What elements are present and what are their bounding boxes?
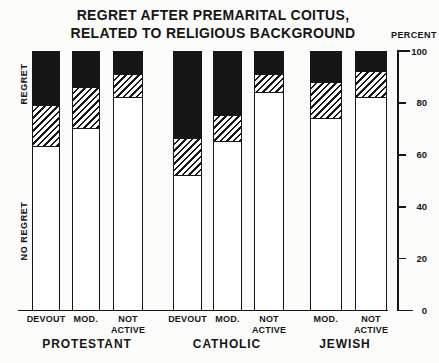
y-axis-line	[397, 51, 399, 312]
segment-regret	[255, 52, 283, 75]
segment-partial-regret	[311, 83, 341, 119]
bar-protestant-mod	[72, 51, 101, 312]
segment-regret	[114, 52, 142, 75]
segment-no-regret	[255, 93, 283, 310]
chart-title: REGRET AFTER PREMARITAL COITUS, RELATED …	[0, 6, 426, 42]
bar-jewish-mod	[310, 51, 342, 312]
segment-no-regret	[114, 98, 142, 310]
no-regret-axis-label: NO REGRET	[18, 171, 30, 291]
segment-partial-regret	[114, 75, 142, 98]
segment-partial-regret	[33, 106, 59, 147]
segment-no-regret	[33, 147, 59, 310]
bar-protestant-not-active	[113, 51, 143, 312]
bar-label-catholic-not-active: NOT ACTIVE	[237, 314, 301, 337]
bar-protestant-devout	[32, 51, 60, 312]
bar-catholic-mod	[213, 51, 242, 312]
x-axis-baseline	[18, 310, 388, 312]
segment-regret	[356, 52, 386, 73]
segment-partial-regret	[356, 72, 386, 98]
segment-regret	[311, 52, 341, 83]
group-label-protestant: PROTESTANT	[12, 337, 162, 351]
chart-title-line1: REGRET AFTER PREMARITAL COITUS,	[0, 6, 426, 24]
y-axis-tick-label: 40	[403, 201, 427, 212]
segment-regret	[33, 52, 59, 106]
segment-regret	[73, 52, 100, 88]
chart-canvas: REGRET AFTER PREMARITAL COITUS, RELATED …	[0, 0, 439, 363]
segment-no-regret	[356, 98, 386, 310]
y-axis-tick-label: 60	[403, 149, 427, 160]
bar-catholic-not-active	[254, 51, 284, 312]
y-axis-tick-label: 0	[403, 305, 427, 316]
segment-no-regret	[73, 129, 100, 310]
y-axis-tick-label: 80	[403, 97, 427, 108]
segment-no-regret	[311, 119, 341, 310]
segment-partial-regret	[214, 116, 241, 142]
segment-regret	[214, 52, 241, 117]
y-axis-unit-label: PERCENT	[391, 30, 437, 40]
segment-no-regret	[214, 142, 241, 310]
bar-label-jewish-not-active: NOT ACTIVE	[339, 314, 403, 337]
segment-partial-regret	[255, 75, 283, 93]
bar-catholic-devout	[173, 51, 202, 312]
bar-jewish-not-active	[355, 51, 387, 312]
segment-partial-regret	[174, 139, 201, 175]
segment-partial-regret	[73, 88, 100, 129]
y-axis-tick-label: 20	[403, 253, 427, 264]
segment-no-regret	[174, 176, 201, 310]
chart-title-line2: RELATED TO RELIGIOUS BACKGROUND	[0, 24, 426, 42]
y-axis-tick-label: 100	[403, 46, 427, 57]
group-label-jewish: JEWISH	[270, 337, 420, 351]
segment-regret	[174, 52, 201, 140]
regret-axis-label: REGRET	[18, 24, 30, 144]
bar-label-protestant-not-active: NOT ACTIVE	[96, 314, 160, 337]
